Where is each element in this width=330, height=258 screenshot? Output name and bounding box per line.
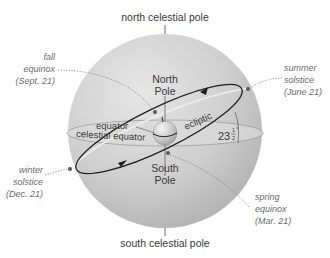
svg-text:solstice: solstice xyxy=(284,75,314,85)
winter-solstice-label: winter solstice (Dec. 21) xyxy=(6,165,44,199)
fall-equinox-label: fall equinox (Sept. 21) xyxy=(15,52,56,86)
svg-text:1: 1 xyxy=(232,127,235,133)
fall-equinox-point xyxy=(153,110,157,114)
spring-equinox-point xyxy=(166,151,170,155)
celestial-sphere-diagram: north celestial pole south celestial pol… xyxy=(0,0,330,258)
svg-text:spring: spring xyxy=(255,192,280,202)
winter-solstice-leader xyxy=(45,169,68,175)
north-pole-label-line2: Pole xyxy=(154,85,175,97)
north-pole-label-line1: North xyxy=(152,73,178,85)
south-pole-label-line1: South xyxy=(151,162,179,174)
north-celestial-pole-label: north celestial pole xyxy=(121,11,209,23)
summer-solstice-point xyxy=(246,87,250,91)
svg-text:(Dec. 21): (Dec. 21) xyxy=(6,189,43,199)
svg-text:2: 2 xyxy=(232,135,235,141)
svg-text:(June 21): (June 21) xyxy=(284,87,322,97)
south-pole-label-line2: Pole xyxy=(154,174,175,186)
winter-solstice-point xyxy=(68,167,72,171)
spring-equinox-label: spring equinox (Mar. 21) xyxy=(255,192,291,226)
summer-solstice-leader xyxy=(251,78,282,88)
svg-text:equinox: equinox xyxy=(255,204,287,214)
svg-text:equinox: equinox xyxy=(23,64,55,74)
svg-text:winter: winter xyxy=(19,165,44,175)
svg-text:23: 23 xyxy=(218,130,230,142)
svg-text:(Sept. 21): (Sept. 21) xyxy=(15,76,55,86)
svg-text:fall: fall xyxy=(43,52,56,62)
svg-text:solstice: solstice xyxy=(13,177,43,187)
svg-text:(Mar. 21): (Mar. 21) xyxy=(255,216,291,226)
summer-solstice-label: summer solstice (June 21) xyxy=(284,63,322,97)
svg-text:summer: summer xyxy=(284,63,318,73)
south-celestial-pole-label: south celestial pole xyxy=(120,237,209,249)
